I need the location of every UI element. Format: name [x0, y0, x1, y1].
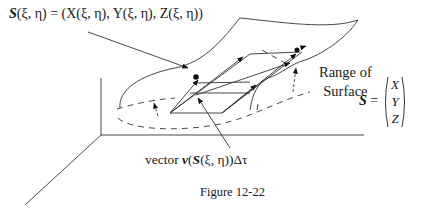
vector-leader [198, 98, 230, 148]
column-vector: X Y Z [383, 76, 407, 128]
s-vector-lhs: S = [359, 93, 378, 109]
formula-leader [88, 32, 188, 68]
vector-prefix: vector [145, 152, 182, 167]
s-symbol-vec: S [193, 152, 201, 167]
component-z: Z [383, 110, 407, 127]
formula-args: (ξ, η) [17, 6, 47, 21]
formula-lhs: S [9, 6, 17, 21]
s-symbol: S [359, 93, 367, 108]
projected-region [117, 98, 175, 109]
equals-sign: = [367, 93, 378, 108]
figure-caption: Figure 12-22 [200, 185, 265, 200]
formula-rhs: = (X(ξ, η), Y(ξ, η), Z(ξ, η)) [47, 6, 203, 21]
component-x: X [383, 76, 407, 93]
component-y: Y [383, 93, 407, 110]
surface-formula: S(ξ, η) = (X(ξ, η), Y(ξ, η), Z(ξ, η)) [9, 6, 203, 22]
surface-dash-top [262, 50, 285, 63]
vector-label: vector v(S(ξ, η))Δτ [145, 152, 248, 168]
x-axis [25, 135, 101, 205]
range-line1: Range of [319, 63, 372, 82]
vector-args: (ξ, η))Δτ [200, 152, 247, 167]
